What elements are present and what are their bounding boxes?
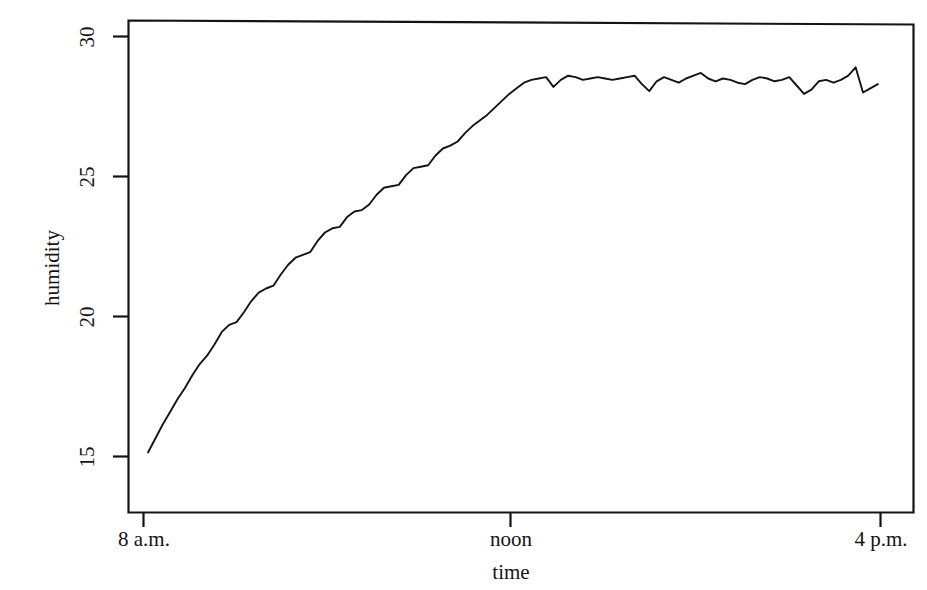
plot-area — [0, 0, 927, 590]
x-tick-label-noon: noon — [455, 529, 567, 550]
y-tick-label-15: 15 — [77, 434, 101, 480]
y-axis-title: humidity — [42, 188, 68, 348]
y-tick-label-25: 25 — [77, 154, 101, 200]
y-tick-label-30: 30 — [77, 14, 101, 60]
x-tick-label-4pm: 4 p.m. — [825, 529, 927, 550]
x-axis-title: time — [455, 562, 567, 583]
x-tick-label-8am: 8 a.m. — [88, 529, 200, 550]
humidity-line — [148, 67, 878, 452]
plot-frame — [129, 21, 914, 513]
y-tick-label-20: 20 — [77, 294, 101, 340]
x-axis-ticks — [144, 513, 881, 528]
chart-figure: 30 25 20 15 humidity 8 a.m. noon 4 p.m. … — [0, 0, 927, 590]
y-axis-ticks — [113, 37, 129, 457]
